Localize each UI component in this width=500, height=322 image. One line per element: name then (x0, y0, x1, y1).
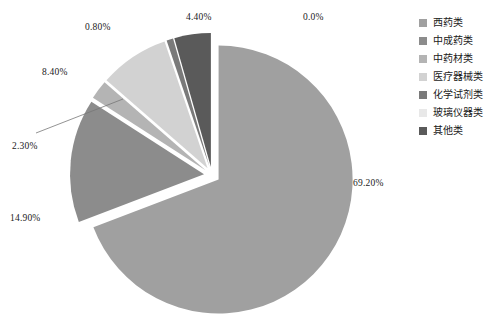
legend-item-zhongyaocai[interactable]: 中药材类 (419, 50, 499, 68)
legend-swatch-icon (419, 19, 427, 27)
legend-swatch-icon (419, 127, 427, 135)
legend-item-huaxueshiji[interactable]: 化学试剂类 (419, 86, 499, 104)
legend-swatch-icon (419, 109, 427, 117)
legend-item-boliyiqi[interactable]: 玻璃仪器类 (419, 104, 499, 122)
legend-label: 西药类 (433, 18, 463, 28)
pie-slices (70, 33, 353, 313)
legend-item-qita[interactable]: 其他类 (419, 122, 499, 140)
legend-swatch-icon (419, 91, 427, 99)
legend-swatch-icon (419, 55, 427, 63)
pct-label-huaxueshiji: 0.80% (85, 22, 111, 32)
legend-label: 其他类 (433, 126, 463, 136)
legend-label: 玻璃仪器类 (433, 108, 483, 118)
legend-label: 中药材类 (433, 54, 473, 64)
pct-label-zhongchengyao: 14.90% (10, 213, 41, 223)
pct-label-boliyiqi: 0.0% (303, 12, 324, 22)
legend-item-zhongchengyao[interactable]: 中成药类 (419, 32, 499, 50)
legend-label: 化学试剂类 (433, 90, 483, 100)
chart-legend: 西药类 中成药类 中药材类 医疗器械类 化学试剂类 玻璃仪器类 其他类 (419, 14, 499, 140)
legend-item-xiyao[interactable]: 西药类 (419, 14, 499, 32)
pie-chart: 4.40% 0.0% 0.80% 8.40% 2.30% 14.90% 69.2… (0, 0, 500, 322)
pct-label-qita: 4.40% (186, 12, 212, 22)
legend-swatch-icon (419, 37, 427, 45)
legend-item-yiliaoqixie[interactable]: 医疗器械类 (419, 68, 499, 86)
legend-label: 中成药类 (433, 36, 473, 46)
pct-label-yiliaoqixie: 8.40% (42, 67, 68, 77)
pct-label-xiyao: 69.20% (353, 178, 384, 188)
pct-label-zhongyaocai: 2.30% (12, 141, 38, 151)
legend-swatch-icon (419, 73, 427, 81)
legend-label: 医疗器械类 (433, 72, 483, 82)
